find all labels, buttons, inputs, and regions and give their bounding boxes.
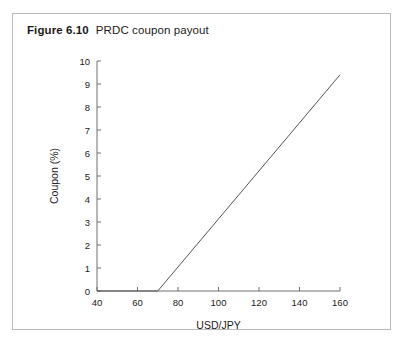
x-axis-title: USD/JPY bbox=[196, 319, 240, 331]
coupon-payout-line bbox=[97, 75, 340, 291]
y-axis-tick-marks bbox=[97, 61, 101, 291]
svg-text:7: 7 bbox=[85, 125, 90, 136]
svg-text:3: 3 bbox=[85, 217, 90, 228]
figure-frame: Figure 6.10PRDC coupon payout 0123456789… bbox=[12, 13, 391, 330]
svg-text:10: 10 bbox=[79, 56, 90, 67]
svg-text:120: 120 bbox=[251, 297, 267, 308]
svg-text:80: 80 bbox=[173, 297, 184, 308]
svg-text:1: 1 bbox=[85, 263, 90, 274]
svg-text:5: 5 bbox=[85, 171, 90, 182]
svg-text:100: 100 bbox=[211, 297, 227, 308]
svg-text:160: 160 bbox=[332, 297, 348, 308]
svg-text:140: 140 bbox=[292, 297, 308, 308]
svg-text:6: 6 bbox=[85, 148, 90, 159]
svg-text:2: 2 bbox=[85, 240, 90, 251]
svg-text:9: 9 bbox=[85, 79, 90, 90]
y-axis-title: Coupon (%) bbox=[48, 148, 60, 204]
svg-text:60: 60 bbox=[132, 297, 143, 308]
svg-text:40: 40 bbox=[92, 297, 103, 308]
svg-text:4: 4 bbox=[85, 194, 90, 205]
x-axis-tick-labels: 406080100120140160 bbox=[92, 297, 348, 308]
y-axis-tick-labels: 012345678910 bbox=[79, 56, 90, 297]
chart-plot-area: 012345678910 406080100120140160 Coupon (… bbox=[13, 14, 392, 331]
x-axis-tick-marks bbox=[97, 287, 340, 291]
svg-text:0: 0 bbox=[85, 286, 90, 297]
svg-text:8: 8 bbox=[85, 102, 90, 113]
